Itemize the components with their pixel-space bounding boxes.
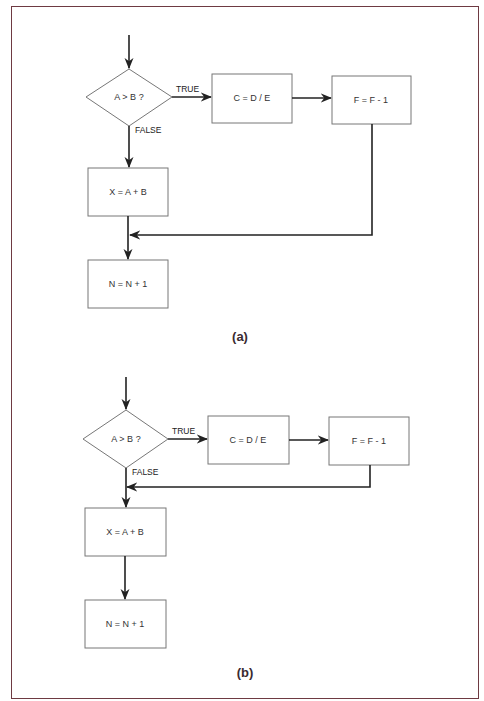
process-node-f: F = F - 1 — [332, 76, 411, 124]
decision-label: A > B ? — [114, 92, 143, 102]
true-label: TRUE — [172, 426, 195, 436]
process-label-n: N = N + 1 — [106, 619, 145, 629]
process-label-f: F = F - 1 — [354, 95, 388, 105]
panel-b: A > B ? TRUE C = D / E F = F - 1 FALSE X… — [83, 377, 409, 680]
process-label-x: X = A + B — [109, 187, 147, 197]
process-label-n: N = N + 1 — [109, 279, 148, 289]
process-node-c: C = D / E — [208, 416, 289, 464]
process-node-n: N = N + 1 — [85, 600, 166, 648]
false-label: FALSE — [132, 467, 159, 477]
process-node-c: C = D / E — [212, 74, 292, 123]
process-label-f: F = F - 1 — [352, 436, 386, 446]
process-node-n: N = N + 1 — [88, 260, 168, 308]
flowchart-figure: A > B ? TRUE C = D / E F = F - 1 FALSE X… — [0, 0, 484, 701]
feedback-edge — [127, 465, 370, 487]
panel-caption-a: (a) — [232, 329, 248, 344]
process-label-c: C = D / E — [230, 435, 267, 445]
true-label: TRUE — [176, 84, 199, 94]
decision-node: A > B ? — [83, 410, 168, 468]
panel-a: A > B ? TRUE C = D / E F = F - 1 FALSE X… — [86, 35, 411, 344]
process-label-c: C = D / E — [234, 93, 271, 103]
false-label: FALSE — [135, 125, 162, 135]
process-node-x: X = A + B — [85, 508, 166, 556]
decision-node: A > B ? — [86, 69, 172, 126]
process-node-f: F = F - 1 — [329, 417, 409, 465]
decision-label: A > B ? — [111, 434, 140, 444]
process-label-x: X = A + B — [106, 527, 144, 537]
panel-caption-b: (b) — [237, 665, 254, 680]
process-node-x: X = A + B — [88, 168, 168, 216]
